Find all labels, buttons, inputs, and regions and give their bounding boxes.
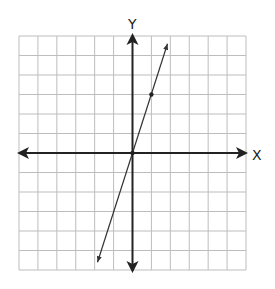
line-arrow-start-icon	[97, 256, 102, 262]
data-point	[130, 151, 134, 155]
coordinate-plane	[0, 0, 275, 289]
y-axis-label: Y	[128, 16, 137, 32]
line-arrow-end-icon	[163, 44, 168, 50]
data-point	[149, 92, 153, 96]
x-axis-label: X	[252, 147, 262, 163]
